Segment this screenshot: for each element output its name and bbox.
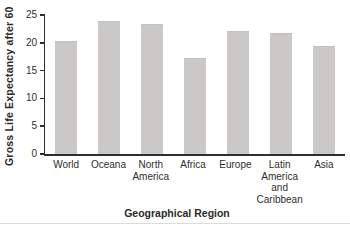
x-tick-label-asia: Asia: [303, 156, 345, 205]
bar-slot-world: [45, 15, 88, 154]
y-tick: 0: [17, 149, 45, 159]
bar-asia: [313, 46, 335, 154]
bar-slot-europe: [216, 15, 259, 154]
y-tick: 5: [17, 121, 45, 131]
bar-latin-america-and-caribbean: [270, 33, 292, 154]
x-axis-tick-labels: WorldOceanaNorthAmericaAfricaEuropeLatin…: [45, 156, 345, 205]
bar-slot-asia: [302, 15, 345, 154]
y-tick: 10: [17, 93, 45, 103]
bar-slot-north-america: [131, 15, 174, 154]
bar-africa: [184, 58, 206, 154]
bar-slot-oceana: [88, 15, 131, 154]
y-tick: 25: [17, 10, 45, 20]
bars-container: [45, 15, 345, 154]
y-tick-label: 10: [17, 93, 37, 103]
y-axis-title: Gross Life Expectancy after 60: [0, 12, 17, 160]
bar-slot-latin-america-and-caribbean: [259, 15, 302, 154]
bar-oceana: [98, 21, 120, 154]
y-tick-label: 5: [17, 121, 37, 131]
scan-edge-line: [0, 223, 350, 224]
bar-slot-africa: [174, 15, 217, 154]
y-tick-label: 20: [17, 38, 37, 48]
bar-north-america: [141, 24, 163, 154]
bar-europe: [227, 31, 249, 154]
y-tick: 15: [17, 66, 45, 76]
x-tick-label-oceana: Oceana: [87, 156, 129, 205]
x-tick-label-latin-america-and-caribbean: LatinAmericaandCaribbean: [257, 156, 303, 205]
x-axis-title: Geographical Region: [44, 207, 310, 219]
bar-world: [55, 41, 77, 154]
x-tick-label-africa: Africa: [172, 156, 214, 205]
plot-area: 0510152025 WorldOceanaNorthAmericaAfrica…: [44, 15, 345, 156]
y-tick-label: 15: [17, 66, 37, 76]
bar-chart-figure: Gross Life Expectancy after 60 051015202…: [0, 0, 350, 225]
y-tick-label: 25: [17, 10, 37, 20]
x-tick-label-europe: Europe: [214, 156, 256, 205]
y-tick-label: 0: [17, 149, 37, 159]
x-tick-label-world: World: [45, 156, 87, 205]
x-tick-label-north-america: NorthAmerica: [130, 156, 172, 205]
y-tick: 20: [17, 38, 45, 48]
